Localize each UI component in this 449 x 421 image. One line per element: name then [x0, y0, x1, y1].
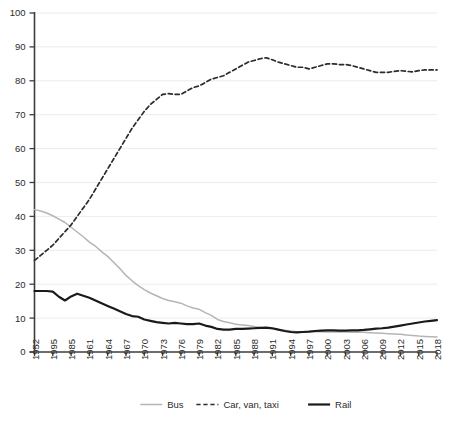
x-tick-label: 1970 — [139, 339, 150, 360]
gridlines — [35, 13, 438, 318]
x-tick-label: 1973 — [158, 339, 169, 360]
x-axis-ticks: 1952199519851961196419671970197319761979… — [30, 339, 444, 360]
x-tick-label: 1985 — [66, 339, 77, 360]
y-axis-ticks: 0102030405060708090100 — [10, 7, 35, 357]
y-tick-label: 20 — [15, 279, 26, 290]
legend-label-car-van-taxi[interactable]: Car, van, taxi — [223, 399, 278, 410]
x-tick-label: 2009 — [377, 339, 388, 360]
series-line-car-van-taxi — [35, 58, 438, 261]
legend-label-rail[interactable]: Rail — [335, 399, 351, 410]
line-chart: 0102030405060708090100 19521995198519611… — [0, 0, 449, 421]
y-tick-label: 10 — [15, 313, 26, 324]
y-tick-label: 70 — [15, 109, 26, 120]
legend-label-bus[interactable]: Bus — [167, 399, 184, 410]
x-tick-label: 2012 — [395, 339, 406, 360]
y-tick-label: 30 — [15, 245, 26, 256]
series-line-rail — [35, 291, 438, 332]
y-tick-label: 50 — [15, 177, 26, 188]
y-tick-label: 40 — [15, 211, 26, 222]
x-tick-label: 1964 — [103, 339, 114, 360]
x-tick-label: 1991 — [267, 339, 278, 360]
x-tick-label: 1979 — [194, 339, 205, 360]
y-tick-label: 100 — [10, 7, 26, 18]
chart-legend: BusCar, van, taxiRail — [140, 399, 351, 410]
x-tick-label: 1997 — [304, 339, 315, 360]
x-tick-label: 1985 — [231, 339, 242, 360]
y-tick-label: 80 — [15, 75, 26, 86]
x-tick-label: 1961 — [84, 339, 95, 360]
x-tick-label: 1995 — [48, 339, 59, 360]
series-lines — [35, 58, 438, 337]
x-tick-label: 1967 — [121, 339, 132, 360]
y-tick-label: 0 — [20, 346, 25, 357]
x-tick-label: 1982 — [212, 339, 223, 360]
x-tick-label: 2006 — [359, 339, 370, 360]
x-tick-label: 1994 — [286, 339, 297, 360]
chart-container: 0102030405060708090100 19521995198519611… — [0, 0, 449, 421]
x-tick-label: 1976 — [176, 339, 187, 360]
x-tick-label: 2000 — [322, 339, 333, 360]
x-tick-label: 2003 — [341, 339, 352, 360]
x-tick-label: 2015 — [414, 339, 425, 360]
x-tick-label: 1988 — [249, 339, 260, 360]
y-tick-label: 90 — [15, 41, 26, 52]
x-tick-label: 2018 — [432, 339, 443, 360]
y-tick-label: 60 — [15, 143, 26, 154]
